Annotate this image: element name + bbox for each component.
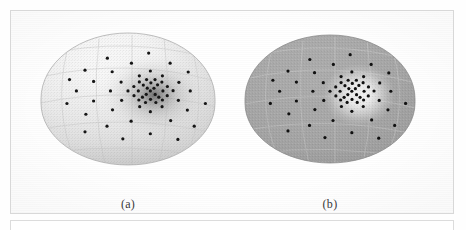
figure-page: (a) <box>0 0 466 230</box>
scatter-point <box>137 89 140 92</box>
scatter-point <box>154 93 157 96</box>
scatter-point <box>75 89 78 92</box>
next-panel-top-edge <box>10 220 454 230</box>
scatter-point <box>350 110 353 113</box>
scatter-point <box>83 69 86 72</box>
scatter-point <box>138 80 141 83</box>
scatter-point <box>322 81 325 84</box>
scatter-point <box>111 108 114 111</box>
scatter-point <box>339 81 342 84</box>
scatter-point <box>204 102 207 105</box>
scatter-point <box>350 90 353 93</box>
scatter-point <box>350 98 353 101</box>
scatter-point <box>153 78 156 81</box>
scatter-point <box>347 87 350 90</box>
scatter-point <box>120 99 123 102</box>
scatter-point <box>378 81 381 84</box>
scatter-point <box>322 99 325 102</box>
scatter-point <box>142 84 145 87</box>
scatter-point <box>149 98 152 101</box>
scatter-point <box>278 90 281 93</box>
scatter-point <box>343 96 346 99</box>
scatter-point <box>193 125 196 128</box>
scatter-point <box>176 138 179 141</box>
scatter-point <box>308 58 311 61</box>
scatter-point <box>331 119 334 122</box>
scatter-point <box>147 52 150 55</box>
scatter-point <box>141 96 144 99</box>
scatter-point <box>286 129 289 132</box>
scatter-point <box>339 75 342 78</box>
scatter-point <box>126 89 129 92</box>
scatter-point <box>149 81 152 84</box>
scatter-point <box>186 108 189 111</box>
scatter-point <box>362 105 365 108</box>
scatter-point <box>169 119 172 122</box>
scatter-point <box>339 98 342 101</box>
scatter-point <box>338 90 341 93</box>
scatter-point <box>121 137 124 140</box>
scatter-point <box>370 118 373 121</box>
scatter-point <box>105 125 108 128</box>
scatter-point <box>269 102 272 105</box>
scatter-point <box>106 57 109 60</box>
scatter-point <box>378 99 381 102</box>
scatter-point <box>343 84 346 87</box>
scatter-point <box>355 93 358 96</box>
figure-panel: (a) <box>10 10 454 214</box>
scatter-point <box>145 93 148 96</box>
scatter-point <box>132 85 135 88</box>
scatter-point <box>362 98 365 101</box>
hemisphere-a <box>33 29 223 189</box>
scatter-point <box>287 112 290 115</box>
scatter-point <box>84 113 87 116</box>
scatter-point <box>130 120 133 123</box>
scatter-point <box>350 131 353 134</box>
scatter-point <box>358 96 361 99</box>
scatter-point <box>387 71 390 74</box>
scatter-point <box>363 90 366 93</box>
scatter-point <box>271 79 274 82</box>
scatter-point <box>313 71 316 74</box>
scatter-point <box>334 85 337 88</box>
scatter-point <box>149 132 152 135</box>
scatter-point <box>92 99 95 102</box>
scatter-point <box>311 90 314 93</box>
scatter-point <box>346 93 349 96</box>
scatter-point <box>137 98 140 101</box>
scatter-point <box>187 70 190 73</box>
scatter-point <box>152 87 155 90</box>
scatter-point <box>355 79 358 82</box>
scatter-point <box>389 90 392 93</box>
scatter-point <box>145 78 148 81</box>
scatter-point <box>149 89 152 92</box>
scatter-point <box>367 94 370 97</box>
scatter-point <box>334 94 337 97</box>
caption-b: (b) <box>235 197 425 212</box>
scatter-point <box>370 63 373 66</box>
scatter-point <box>286 70 289 73</box>
scatter-point <box>386 108 389 111</box>
scatter-point <box>149 110 152 113</box>
scatter-point <box>160 81 163 84</box>
scatter-point <box>377 137 380 140</box>
scatter-point <box>308 124 311 127</box>
scatter-point <box>340 105 343 108</box>
scatter-point <box>351 82 354 85</box>
scatter-point <box>83 130 86 133</box>
scatter-point <box>138 105 141 108</box>
scatter-point <box>362 81 365 84</box>
scatter-point <box>323 136 326 139</box>
scatter-point <box>347 79 350 82</box>
scatter-point <box>65 102 68 105</box>
scatter-point <box>404 102 407 105</box>
scatter-point <box>130 62 133 65</box>
scatter-point <box>349 53 352 56</box>
scatter-point <box>171 89 174 92</box>
scatter-point <box>367 85 370 88</box>
scatter-point <box>362 75 365 78</box>
scatter-point <box>295 80 298 83</box>
scatter-point <box>68 78 71 81</box>
scatter-point <box>138 74 141 77</box>
scatter-point <box>350 70 353 73</box>
